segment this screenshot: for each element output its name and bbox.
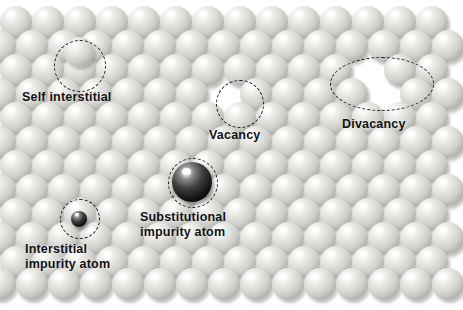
interstitial-impurity-marker [60,199,100,239]
self-interstitial-marker [54,40,106,92]
divacancy-marker [330,57,434,111]
vacancy-marker [216,80,264,128]
substitutional-impurity-marker [168,158,218,208]
lattice-defects-figure: Self interstitial Vacancy Divacancy Subs… [0,0,463,310]
annotation-marker-layer [0,0,463,310]
